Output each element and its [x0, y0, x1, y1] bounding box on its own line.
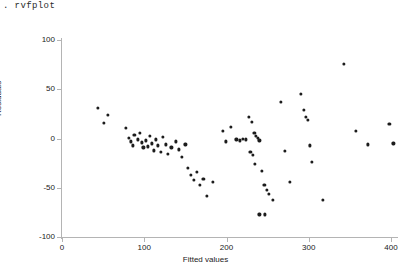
x-tick-label: 0 [42, 243, 82, 252]
scatter-point [186, 166, 189, 169]
scatter-point [247, 115, 250, 118]
scatter-point [142, 146, 145, 149]
scatter-point [258, 139, 261, 142]
scatter-point [190, 173, 193, 176]
scatter-point [321, 198, 324, 201]
scatter-point [283, 150, 286, 153]
scatter-point [154, 138, 157, 141]
scatter-point [222, 129, 225, 132]
scatter-point [184, 143, 187, 146]
scatter-point [299, 93, 302, 96]
scatter-point [166, 153, 169, 156]
scatter-point [195, 170, 198, 173]
scatter-point [164, 143, 167, 146]
scatter-point [263, 183, 266, 186]
x-tick-mark [62, 238, 63, 242]
scatter-point [202, 177, 205, 180]
scatter-point [343, 62, 346, 65]
console-command-line: . rvfplot [3, 1, 55, 11]
scatter-point [279, 100, 282, 103]
scatter-point [192, 178, 195, 181]
scatter-point [127, 136, 130, 139]
scatter-point [140, 141, 143, 144]
scatter-point [159, 151, 162, 154]
x-tick-mark [309, 238, 310, 242]
rvf-scatter-plot: -100-50050100 0100200300400 Residuals Fi… [0, 14, 411, 280]
y-tick-label: 50 [25, 84, 55, 93]
scatter-point [271, 198, 274, 201]
scatter-point [170, 146, 173, 149]
scatter-point [174, 140, 177, 143]
y-tick-label: 0 [25, 134, 55, 143]
y-tick-mark [57, 89, 61, 90]
scatter-point [366, 143, 369, 146]
scatter-point [125, 126, 128, 129]
scatter-point [251, 154, 254, 157]
scatter-point [144, 139, 147, 142]
plot-area [62, 40, 391, 237]
x-tick-label: 100 [124, 243, 164, 252]
scatter-point [199, 183, 202, 186]
x-axis-title: Fitted values [0, 255, 411, 264]
scatter-point [250, 120, 253, 123]
scatter-point [310, 161, 313, 164]
scatter-point [146, 145, 149, 148]
scatter-point [308, 144, 311, 147]
x-tick-mark [227, 238, 228, 242]
scatter-point [260, 169, 263, 172]
scatter-point [139, 131, 142, 134]
x-tick-mark [391, 238, 392, 242]
scatter-point [205, 194, 208, 197]
scatter-point [148, 134, 151, 137]
y-tick-label: 100 [25, 35, 55, 44]
scatter-point [264, 213, 267, 216]
scatter-point [245, 138, 248, 141]
scatter-point [229, 125, 232, 128]
scatter-point [162, 135, 165, 138]
scatter-point [254, 163, 257, 166]
scatter-point [97, 106, 100, 109]
scatter-point [157, 144, 160, 147]
y-tick-label: -50 [25, 183, 55, 192]
scatter-point [306, 118, 309, 121]
scatter-point [106, 113, 109, 116]
scatter-point [224, 140, 227, 143]
y-tick-mark [57, 139, 61, 140]
y-tick-mark [57, 237, 61, 238]
x-tick-mark [144, 238, 145, 242]
scatter-point [354, 129, 357, 132]
scatter-point [177, 148, 180, 151]
x-tick-label: 300 [289, 243, 329, 252]
scatter-point [288, 180, 291, 183]
y-axis-title: Residuals [0, 81, 3, 116]
y-tick-mark [57, 40, 61, 41]
scatter-point [136, 138, 139, 141]
scatter-point [153, 149, 156, 152]
scatter-point [265, 188, 268, 191]
scatter-point [302, 108, 305, 111]
scatter-point [102, 121, 105, 124]
y-tick-label: -100 [25, 232, 55, 241]
scatter-point [129, 140, 132, 143]
scatter-point [211, 180, 214, 183]
y-tick-mark [57, 188, 61, 189]
scatter-point [258, 213, 261, 216]
scatter-point [133, 133, 136, 136]
scatter-point [388, 122, 391, 125]
scatter-point [180, 156, 183, 159]
scatter-point [392, 142, 395, 145]
x-axis-line [61, 237, 398, 238]
scatter-point [131, 144, 134, 147]
scatter-point [150, 142, 153, 145]
x-tick-label: 400 [371, 243, 411, 252]
x-tick-label: 200 [207, 243, 247, 252]
scatter-point [268, 192, 271, 195]
